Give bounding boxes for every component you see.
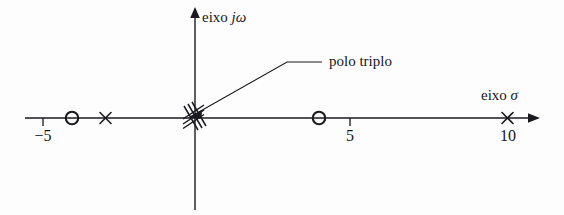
imaginary-axis-label-prefix: eixo [202, 9, 232, 25]
tick-label-10: 10 [492, 128, 524, 144]
annotation-leader [189, 62, 322, 119]
triple-pole-annotation-text: polo triplo [329, 54, 392, 69]
imaginary-axis-label: eixo jω [202, 10, 246, 25]
real-axis-label-prefix: eixo [481, 87, 511, 103]
imaginary-axis-label-symbol: jω [232, 9, 247, 25]
imaginary-axis-arrowhead [190, 7, 200, 18]
real-axis-label: eixo σ [481, 88, 518, 103]
real-axis-arrowhead [528, 113, 540, 123]
real-axis-label-symbol: σ [511, 87, 518, 103]
root-figure: eixo jω eixo σ polo triplo −5 5 10 [0, 0, 564, 215]
annotation-leader-line [190, 62, 322, 117]
tick-label-5: 5 [336, 128, 364, 144]
tick-label-neg5: −5 [27, 128, 59, 144]
pole-zero-plot [0, 0, 564, 215]
